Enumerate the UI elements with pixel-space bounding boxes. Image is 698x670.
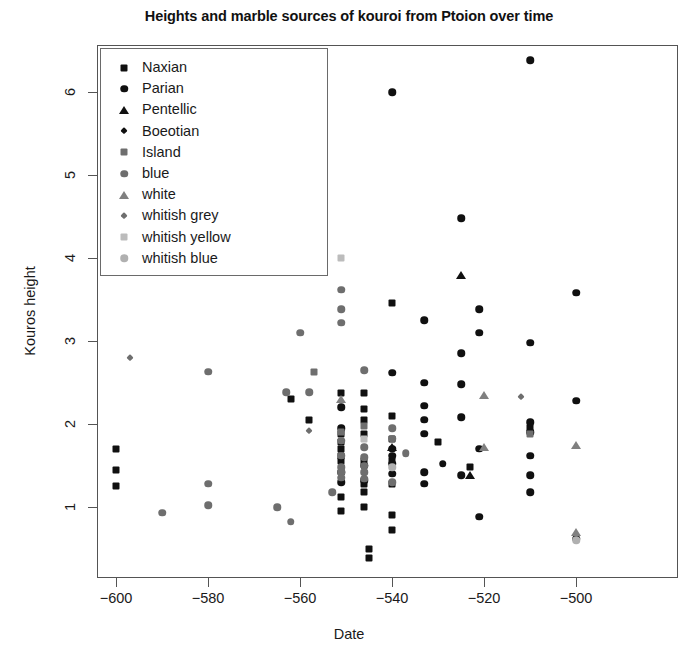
y-tick [88,507,97,508]
legend-item-label: Pentellic [142,101,197,117]
legend-item: whitish yellow [100,227,328,248]
x-tick [576,578,577,587]
y-tick [88,92,97,93]
y-tick [88,424,97,425]
legend-item-label: whitish blue [142,250,218,266]
legend-item: Naxian [100,57,328,78]
legend-item-label: blue [142,165,169,181]
legend-item-label: whitish yellow [142,229,231,245]
x-axis-title: Date [0,626,698,642]
x-tick [392,578,393,587]
legend-item: white [100,184,328,205]
square-marker-icon [121,64,128,71]
circle-marker-icon [120,170,128,178]
square-marker-icon [121,234,128,241]
y-tick-label: 5 [62,171,78,179]
y-tick-label: 3 [62,337,78,345]
diamond-marker-icon [120,212,128,220]
legend-item-label: whitish grey [142,207,219,223]
legend-item: Boeotian [100,121,328,142]
x-tick-label: −500 [560,590,593,606]
x-tick-label: −600 [100,590,133,606]
legend-item: Parian [100,78,328,99]
legend-item-label: Parian [142,80,184,96]
diamond-marker-icon [120,127,128,135]
y-axis-title: Kouros height [22,266,38,355]
chart-title: Heights and marble sources of kouroi fro… [0,8,698,24]
y-tick-label: 2 [62,420,78,428]
x-tick-label: −540 [376,590,409,606]
legend-item: whitish grey [100,205,328,226]
x-tick-label: −520 [468,590,501,606]
legend-item: Pentellic [100,99,328,120]
y-tick-label: 6 [62,88,78,96]
legend-item: blue [100,163,328,184]
x-tick [208,578,209,587]
x-tick-label: −580 [192,590,225,606]
legend-item-label: Island [142,144,181,160]
x-tick [116,578,117,587]
x-tick [484,578,485,587]
legend-item-label: Naxian [142,59,187,75]
square-marker-icon [121,149,128,156]
x-tick-label: −560 [284,590,317,606]
y-tick [88,341,97,342]
y-tick [88,258,97,259]
legend-item: whitish blue [100,248,328,269]
triangle-marker-icon [119,106,129,114]
circle-marker-icon [120,85,128,93]
y-tick-label: 4 [62,254,78,262]
scatter-plot-figure: Heights and marble sources of kouroi fro… [0,0,698,670]
triangle-marker-icon [119,191,129,199]
legend-item-label: Boeotian [142,123,199,139]
legend: NaxianParianPentellicBoeotianIslandbluew… [100,48,328,276]
y-tick-label: 1 [62,503,78,511]
circle-marker-icon [120,255,128,263]
legend-item-label: white [142,186,176,202]
legend-item: Island [100,142,328,163]
x-tick [300,578,301,587]
y-tick [88,175,97,176]
